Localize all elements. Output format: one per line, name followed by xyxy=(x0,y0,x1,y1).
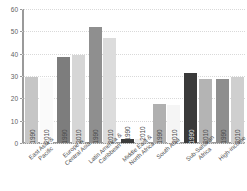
bar: 1990 xyxy=(89,27,102,143)
gridline xyxy=(22,31,245,32)
bar: 2010 xyxy=(72,55,85,143)
bar-chart: 0102030405060 19902010199020101990201019… xyxy=(0,0,247,191)
y-axis-tick-label: 60 xyxy=(11,6,18,13)
y-axis-tick-label: 0 xyxy=(14,140,18,147)
y-axis-tick-label: 40 xyxy=(11,50,18,57)
gridline xyxy=(22,76,245,77)
y-axis-tick-label: 50 xyxy=(11,28,18,35)
y-axis-tick-label: 10 xyxy=(11,117,18,124)
bar: 2010 xyxy=(103,38,116,143)
gridline xyxy=(22,54,245,55)
bar: 1990 xyxy=(25,77,38,143)
y-axis-ticks: 0102030405060 xyxy=(0,9,20,143)
gridline xyxy=(22,9,245,10)
bar-year-label: 1990 xyxy=(28,129,35,143)
x-axis-category-labels: East Asia & PacificEurope & Central Asia… xyxy=(22,144,245,191)
chart-title-cropped xyxy=(28,0,228,7)
plot-area: 1990201019902010199020101990201019902010… xyxy=(22,9,245,143)
bar: 2010 xyxy=(40,78,53,143)
bar: 2010 xyxy=(231,77,244,143)
y-axis-tick-label: 20 xyxy=(11,95,18,102)
y-axis-tick-label: 30 xyxy=(11,73,18,80)
